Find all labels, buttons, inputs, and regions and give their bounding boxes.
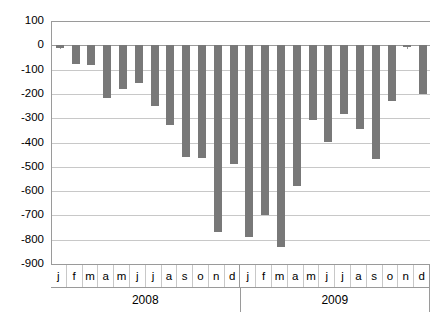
x-tick-label: m bbox=[304, 265, 320, 287]
bar[interactable] bbox=[293, 45, 301, 186]
bar[interactable] bbox=[87, 45, 95, 65]
bar[interactable] bbox=[182, 45, 190, 157]
bar[interactable] bbox=[324, 45, 332, 142]
bar[interactable] bbox=[56, 45, 64, 48]
x-axis-years: 20082009 bbox=[51, 288, 430, 312]
x-tick-label: n bbox=[209, 265, 225, 287]
y-tick-label: 100 bbox=[25, 15, 44, 26]
y-tick-label: -900 bbox=[21, 258, 44, 269]
y-axis: 1000-100-200-300-400-500-600-700-800-900 bbox=[0, 0, 48, 323]
bar[interactable] bbox=[388, 45, 396, 101]
bar[interactable] bbox=[198, 45, 206, 158]
y-tick-label: -800 bbox=[21, 234, 44, 245]
bar[interactable] bbox=[72, 45, 80, 64]
y-tick-label: -600 bbox=[21, 185, 44, 196]
bar[interactable] bbox=[419, 45, 427, 94]
x-tick-label: m bbox=[272, 265, 288, 287]
bar[interactable] bbox=[230, 45, 238, 164]
x-group-label: 2008 bbox=[51, 288, 241, 312]
bar[interactable] bbox=[340, 45, 348, 114]
bar-chart: 1000-100-200-300-400-500-600-700-800-900… bbox=[0, 0, 436, 323]
y-tick-label: -100 bbox=[21, 64, 44, 75]
bars-group bbox=[52, 21, 430, 264]
bar[interactable] bbox=[356, 45, 364, 129]
bar[interactable] bbox=[119, 45, 127, 89]
x-tick-label: j bbox=[130, 265, 146, 287]
y-tick-label: -500 bbox=[21, 161, 44, 172]
bar[interactable] bbox=[214, 45, 222, 232]
x-tick-label: d bbox=[225, 265, 241, 287]
y-tick-label: -400 bbox=[21, 137, 44, 148]
y-tick-label: -700 bbox=[21, 209, 44, 220]
x-tick-label: j bbox=[146, 265, 162, 287]
x-tick-label: a bbox=[288, 265, 304, 287]
x-tick-label: a bbox=[98, 265, 114, 287]
x-tick-label: a bbox=[162, 265, 178, 287]
x-tick-label: f bbox=[256, 265, 272, 287]
bar[interactable] bbox=[372, 45, 380, 159]
x-tick-label: m bbox=[83, 265, 99, 287]
x-tick-label: n bbox=[398, 265, 414, 287]
bar[interactable] bbox=[103, 45, 111, 98]
x-tick-label: j bbox=[51, 265, 67, 287]
bar[interactable] bbox=[261, 45, 269, 215]
x-tick-label: o bbox=[383, 265, 399, 287]
y-tick-label: -200 bbox=[21, 88, 44, 99]
x-tick-label: j bbox=[319, 265, 335, 287]
x-tick-label: f bbox=[67, 265, 83, 287]
x-tick-label: d bbox=[414, 265, 430, 287]
bar[interactable] bbox=[151, 45, 159, 106]
x-tick-label: o bbox=[193, 265, 209, 287]
y-tick-label: 0 bbox=[38, 39, 44, 50]
x-tick-label: m bbox=[114, 265, 130, 287]
x-tick-label: s bbox=[177, 265, 193, 287]
x-tick-label: a bbox=[351, 265, 367, 287]
x-tick-label: j bbox=[241, 265, 257, 287]
bar[interactable] bbox=[245, 45, 253, 237]
x-group-label: 2009 bbox=[241, 288, 431, 312]
plot-area bbox=[51, 21, 430, 264]
x-axis-months: jfmamjjasondjfmamjjasond bbox=[51, 264, 430, 288]
bar[interactable] bbox=[166, 45, 174, 125]
x-tick-label: s bbox=[367, 265, 383, 287]
x-tick-label: j bbox=[335, 265, 351, 287]
bar[interactable] bbox=[277, 45, 285, 247]
y-tick-label: -300 bbox=[21, 112, 44, 123]
bar[interactable] bbox=[309, 45, 317, 120]
bar[interactable] bbox=[135, 45, 143, 83]
bar[interactable] bbox=[403, 45, 411, 47]
